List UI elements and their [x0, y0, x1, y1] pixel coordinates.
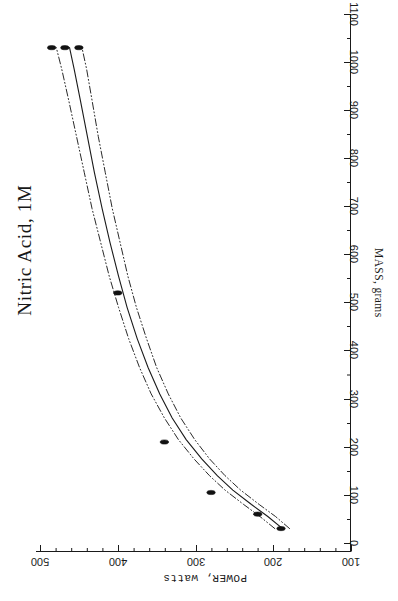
- power-tick-label: 200: [256, 556, 290, 568]
- mass-axis-title: MASS, grams: [373, 248, 385, 318]
- mass-tick-label: 500: [348, 285, 360, 319]
- mass-tick-label: 600: [348, 237, 360, 271]
- mass-tick-label: 1100: [348, 0, 360, 31]
- data-point-marker: [160, 440, 168, 444]
- mass-tick-label: 700: [348, 189, 360, 223]
- power-tick-label: 400: [101, 556, 135, 568]
- mass-tick-label: 200: [348, 430, 360, 464]
- mass-tick-label: 1000: [348, 45, 360, 79]
- data-point-marker: [277, 526, 285, 530]
- data-point-marker: [75, 46, 83, 50]
- mass-tick-label: 900: [348, 93, 360, 127]
- mass-tick-label: 400: [348, 333, 360, 367]
- plot-canvas: [0, 0, 398, 601]
- data-point-marker: [114, 291, 122, 295]
- mass-tick-label: 800: [348, 141, 360, 175]
- data-point-marker: [207, 490, 215, 494]
- mass-tick-label: 0: [348, 526, 360, 560]
- data-point-marker: [254, 512, 262, 516]
- curve-upper-confidence-band: [56, 48, 274, 529]
- mass-tick-label: 300: [348, 382, 360, 416]
- data-point-marker: [61, 46, 69, 50]
- mass-tick-label: 100: [348, 478, 360, 512]
- power-tick-label: 500: [23, 556, 57, 568]
- data-point-marker: [47, 46, 55, 50]
- data-point-markers: [47, 46, 285, 531]
- chart-page: Nitric Acid, 1M 500400300200100 POWER, w…: [0, 0, 398, 601]
- plot-area: [0, 0, 398, 601]
- power-axis-title: POWER, watts: [150, 572, 260, 584]
- power-tick-marks: [41, 545, 352, 552]
- data-curves: [56, 48, 289, 529]
- power-tick-label: 300: [179, 556, 213, 568]
- curve-fit: [70, 48, 283, 529]
